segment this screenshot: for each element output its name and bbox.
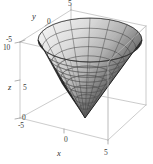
y-tick-5: 5	[68, 0, 72, 8]
plot-canvas	[0, 0, 153, 164]
x-tick-0: 0	[64, 136, 68, 144]
y-tick-0: 0	[47, 18, 51, 26]
cone-surface	[38, 18, 142, 118]
axis-label-x: x	[57, 149, 61, 158]
surface-plot-figure: y 5 0 -5 10 z 5 0 -5 0 x 5	[0, 0, 153, 164]
axis-label-y: y	[32, 12, 36, 21]
x-tick-5: 5	[104, 149, 108, 157]
z-tick-5: 5	[23, 84, 27, 92]
x-tick-neg5: -5	[18, 122, 24, 130]
z-tick-10: 10	[3, 44, 10, 52]
axis-label-z: z	[8, 83, 11, 92]
